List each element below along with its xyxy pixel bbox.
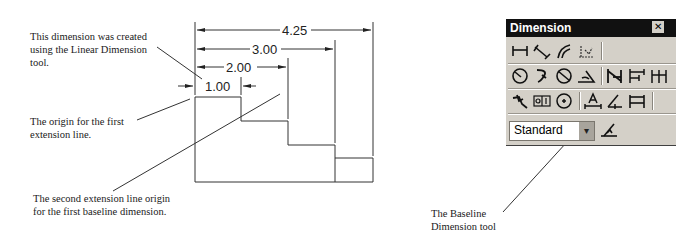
ordinate-icon[interactable] bbox=[576, 42, 596, 60]
chevron-down-icon[interactable]: ▾ bbox=[579, 122, 594, 140]
dimension-update-icon[interactable] bbox=[627, 92, 647, 110]
note-line: The second extension line origin bbox=[33, 192, 170, 205]
origin-note: The origin for the first extension line. bbox=[30, 115, 124, 141]
arc-length-icon[interactable] bbox=[554, 42, 574, 60]
diameter-icon[interactable] bbox=[554, 67, 574, 85]
toolbar-row-2 bbox=[508, 64, 676, 89]
quick-leader-icon[interactable] bbox=[510, 92, 530, 110]
dimension-text-edit-icon[interactable] bbox=[605, 92, 625, 110]
linear-dimension-icon[interactable] bbox=[510, 42, 530, 60]
dimension-edit-icon[interactable] bbox=[583, 92, 603, 110]
toolbar-row-3 bbox=[508, 89, 676, 114]
tolerance-icon[interactable] bbox=[532, 92, 552, 110]
note-line: The Baseline bbox=[431, 207, 496, 220]
toolbar-separator bbox=[579, 92, 580, 110]
note-line: tool. bbox=[30, 56, 147, 69]
toolbar-separator bbox=[601, 67, 602, 85]
baseline-tool-note: The Baseline Dimension tool bbox=[431, 207, 496, 233]
close-button[interactable]: ✕ bbox=[652, 21, 664, 33]
note-line: The origin for the first bbox=[30, 115, 124, 128]
jogged-icon[interactable] bbox=[532, 67, 552, 85]
note-line: This dimension was created bbox=[30, 30, 147, 43]
toolbar-separator bbox=[601, 42, 602, 60]
dimension-style-value: Standard bbox=[514, 123, 563, 137]
note-line: for the first baseline dimension. bbox=[33, 205, 170, 218]
aligned-dimension-icon[interactable] bbox=[532, 42, 552, 60]
dim-2-00: 2.00 bbox=[226, 60, 251, 75]
quick-dimension-icon[interactable] bbox=[605, 67, 625, 85]
toolbar-title[interactable]: Dimension bbox=[506, 19, 676, 37]
dim-3-00: 3.00 bbox=[252, 42, 277, 57]
note-line: Dimension tool bbox=[431, 220, 496, 233]
dimension-style-icon[interactable] bbox=[599, 121, 619, 139]
dimension-style-select[interactable]: Standard ▾ bbox=[509, 121, 595, 141]
note-line: using the Linear Dimension bbox=[30, 43, 147, 56]
continue-dimension-icon[interactable] bbox=[649, 67, 669, 85]
angular-icon[interactable] bbox=[576, 67, 596, 85]
second-origin-note: The second extension line origin for the… bbox=[33, 192, 170, 218]
toolbar-row-1 bbox=[508, 39, 676, 64]
toolbar-separator bbox=[652, 92, 653, 110]
note-line: extension line. bbox=[30, 128, 124, 141]
dim-1-00: 1.00 bbox=[205, 79, 230, 94]
dim-4-25: 4.25 bbox=[282, 23, 307, 38]
radius-icon[interactable] bbox=[510, 67, 530, 85]
baseline-dimension-icon[interactable] bbox=[627, 67, 647, 85]
dimension-toolbar: Dimension ✕ Standard ▾ bbox=[505, 18, 676, 145]
linear-dimension-note: This dimension was created using the Lin… bbox=[30, 30, 147, 69]
center-mark-icon[interactable] bbox=[554, 92, 574, 110]
